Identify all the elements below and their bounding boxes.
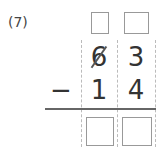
borrow-box-ones[interactable] [124, 12, 149, 34]
column-guide-line [117, 40, 118, 147]
subtrahend-tens-digit: 1 [82, 75, 116, 105]
answer-rule-line [45, 108, 156, 110]
answer-box-ones[interactable] [122, 117, 152, 146]
minuend-ones-digit: 3 [119, 42, 153, 72]
problem-number-label: (7) [8, 14, 28, 30]
subtrahend-ones-digit: 4 [119, 75, 153, 105]
column-guide-line [155, 40, 156, 147]
minus-sign: − [50, 75, 72, 105]
borrow-box-tens[interactable] [91, 12, 109, 34]
answer-box-tens[interactable] [86, 117, 114, 146]
